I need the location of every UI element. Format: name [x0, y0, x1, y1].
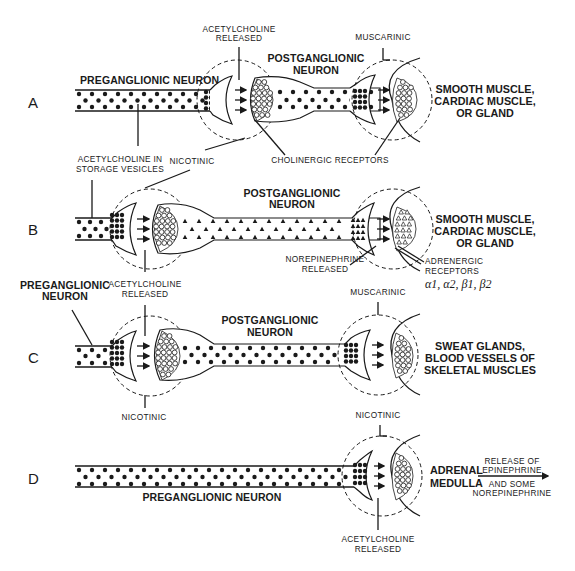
receptor-subtypes-label: α1, α2, β1, β2: [425, 277, 492, 291]
panel-c: PREGANGLIONIC NEURON ACETYLCHOLINE RELEA…: [20, 279, 536, 422]
release-arrows-b: [137, 219, 149, 239]
ne-released-label-2: RELEASED: [302, 264, 349, 274]
adrenal-label-1: ADRENAL: [430, 464, 483, 476]
postganglionic-neuron-label-c-2: NEURON: [247, 326, 293, 338]
panel-label-d: D: [28, 470, 39, 487]
preganglionic-neuron-label-c-2: NEURON: [42, 290, 88, 302]
muscarinic-receptors-a: [396, 80, 414, 118]
cholinergic-receptors-label: CHOLINERGIC RECEPTORS: [271, 155, 389, 165]
release-arrows-c: [137, 346, 149, 366]
muscarinic-label-a: MUSCARINIC: [355, 32, 411, 42]
ach-released-label-a-2: RELEASED: [216, 33, 263, 43]
panel-label-c: C: [28, 349, 39, 366]
preganglionic-neuron-label-a: PREGANGLIONIC NEURON: [80, 74, 219, 86]
presynaptic-terminal-d: [354, 451, 372, 500]
postganglionic-neuron-label-b-2: NEURON: [269, 198, 315, 210]
ach-vesicles-b: [77, 220, 109, 238]
postganglionic-neuron-label-a-1: POSTGANGLIONIC: [267, 52, 364, 64]
ach-released-label-c-2: RELEASED: [122, 289, 169, 299]
presynaptic-vesicles-c: [110, 340, 124, 366]
muscarinic-receptors-c: [395, 336, 412, 374]
target-label-b-2: CARDIAC MUSCLE,: [434, 225, 535, 237]
release-arrows-a: [235, 90, 246, 110]
target-label-b-3: OR GLAND: [456, 237, 514, 249]
muscarinic-label-c: MUSCARINIC: [350, 287, 406, 297]
target-label-a-3: OR GLAND: [456, 107, 514, 119]
presynaptic-terminal-c: [112, 331, 136, 381]
storage-vesicles-label-1: ACETYLCHOLINE IN: [78, 154, 163, 164]
target-label-a-2: CARDIAC MUSCLE,: [434, 95, 535, 107]
target-label-a-1: SMOOTH MUSCLE,: [436, 83, 535, 95]
adrenergic-receptors-label-2: RECEPTORS: [425, 266, 479, 276]
adrenergic-receptors-label-1: ADRENERGIC: [425, 256, 483, 266]
presynaptic-vesicles-b: [110, 213, 124, 239]
postganglionic-neuron-label-c-1: POSTGANGLIONIC: [221, 314, 318, 326]
panel-label-b: B: [28, 221, 38, 238]
panel-d: D PREGANGLIONIC NEURON NICOTINIC ACETYLC…: [28, 410, 552, 554]
presynaptic-terminal-b: [112, 203, 136, 255]
postganglionic-cell-body-b: [153, 204, 381, 254]
target-label-c-1: SWEAT GLANDS,: [435, 340, 525, 352]
ach-released-label-c-1: ACETYLCHOLINE: [108, 279, 181, 289]
preganglionic-neuron-label-d: PREGANGLIONIC NEURON: [142, 491, 281, 503]
target-label-c-3: SKELETAL MUSCLES: [424, 364, 536, 376]
panel-b: B POSTGANGLIONIC NEURON SMOOTH MUSCLE,: [28, 180, 536, 291]
output-label-4: NOREPINEPHRINE: [473, 488, 552, 498]
ach-released-label-d-1: ACETYLCHOLINE: [341, 534, 414, 544]
postganglionic-neuron-label-a-2: NEURON: [293, 64, 339, 76]
nicotinic-label-b: NICOTINIC: [169, 156, 214, 166]
preganglionic-axon-a: [75, 90, 213, 111]
nicotinic-receptors-d: [395, 456, 412, 494]
nicotinic-label-c: NICOTINIC: [121, 412, 166, 422]
effector-arrows-c: [372, 345, 383, 365]
release-arrows-d: [374, 466, 384, 486]
panel-label-a: A: [28, 94, 38, 111]
ach-vesicles-a: [77, 90, 213, 111]
target-label-c-2: BLOOD VESSELS OF: [425, 352, 535, 364]
ach-vesicles-d: [77, 468, 348, 486]
ach-released-label-d-2: RELEASED: [355, 544, 402, 554]
nicotinic-label-d: NICOTINIC: [355, 410, 400, 420]
target-label-b-1: SMOOTH MUSCLE,: [436, 213, 535, 225]
output-label-2: EPINEPHRINE: [482, 465, 542, 475]
autonomic-diagram: A PREGANGLIONIC NEURON ACETYLCHOLINE REL…: [0, 0, 575, 571]
panel-a: A PREGANGLIONIC NEURON ACETYLCHOLINE REL…: [28, 24, 536, 142]
ach-vesicles-c: [77, 348, 107, 365]
storage-vesicles-label-2: STORAGE VESICLES: [76, 164, 164, 174]
